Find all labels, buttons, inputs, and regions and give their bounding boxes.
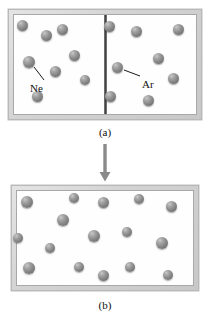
ne-label: Ne — [30, 83, 43, 94]
gas-atom — [57, 214, 69, 226]
gas-atom — [156, 237, 168, 249]
arrow-head — [100, 172, 111, 182]
arrow-shaft — [103, 144, 106, 174]
transition-arrow-icon — [99, 144, 111, 182]
caption-b: (b) — [0, 300, 210, 311]
gas-atom — [13, 233, 23, 243]
gas-atom — [74, 262, 84, 272]
gas-atom — [23, 262, 35, 274]
gas-atom — [45, 243, 55, 253]
ar-label: Ar — [142, 79, 154, 90]
gas-atom — [125, 262, 135, 272]
gas-atom — [98, 197, 109, 208]
gas-atom — [21, 196, 33, 208]
gas-atom — [163, 270, 173, 280]
gas-atom — [98, 270, 109, 281]
gas-atom — [134, 194, 144, 204]
diffusion-figure: Ne Ar (a) (b) — [0, 0, 210, 319]
gas-atom — [69, 193, 79, 203]
caption-a: (a) — [0, 127, 210, 138]
gas-atom — [166, 201, 177, 212]
gas-atom — [88, 230, 100, 242]
gas-atom — [122, 227, 132, 237]
